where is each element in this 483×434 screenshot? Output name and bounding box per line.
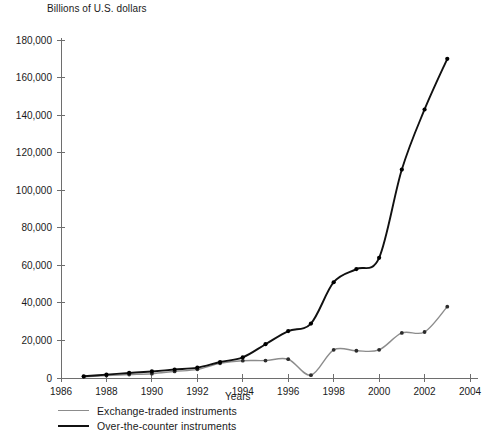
svg-text:2004: 2004	[459, 386, 482, 397]
svg-text:2000: 2000	[368, 386, 391, 397]
svg-text:60,000: 60,000	[21, 260, 52, 271]
data-point-over-the-counter	[400, 167, 404, 171]
chart-legend: Exchange-traded instruments Over-the-cou…	[58, 403, 358, 433]
legend-label-exchange-traded: Exchange-traded instruments	[97, 405, 237, 417]
legend-swatch-over-the-counter-icon	[58, 425, 89, 427]
x-axis-tick-labels: 1986198819901992199419961998200020022004	[50, 386, 482, 397]
data-point-over-the-counter	[445, 57, 449, 61]
data-point-exchange-traded	[423, 330, 427, 334]
data-point-over-the-counter	[104, 373, 108, 377]
svg-text:2002: 2002	[413, 386, 436, 397]
data-point-exchange-traded	[377, 348, 381, 352]
data-point-exchange-traded	[332, 348, 336, 352]
data-point-exchange-traded	[286, 357, 290, 361]
svg-text:20,000: 20,000	[21, 335, 52, 346]
y-axis-tick-labels: 020,00040,00060,00080,000100,000120,0001…	[16, 35, 53, 384]
data-point-over-the-counter	[332, 280, 336, 284]
chart-x-axis-title: Years	[225, 391, 251, 402]
svg-text:40,000: 40,000	[21, 297, 52, 308]
data-point-over-the-counter	[241, 355, 245, 359]
chart-axes	[61, 38, 478, 378]
series-over-the-counter	[82, 57, 450, 379]
legend-item-over-the-counter: Over-the-counter instruments	[58, 418, 358, 433]
series-exchange-traded	[82, 305, 449, 379]
data-point-over-the-counter	[377, 256, 381, 260]
svg-text:1998: 1998	[323, 386, 346, 397]
line-chart-plot: 020,00040,00060,00080,000100,000120,0001…	[0, 0, 483, 434]
svg-text:120,000: 120,000	[16, 147, 53, 158]
svg-text:1988: 1988	[95, 386, 118, 397]
series-line-exchange-traded	[84, 307, 448, 377]
data-point-exchange-traded	[264, 359, 268, 363]
svg-text:80,000: 80,000	[21, 222, 52, 233]
legend-label-over-the-counter: Over-the-counter instruments	[97, 420, 236, 432]
svg-text:100,000: 100,000	[16, 185, 53, 196]
series-line-over-the-counter	[84, 59, 448, 377]
data-point-exchange-traded	[400, 331, 404, 335]
svg-text:1996: 1996	[277, 386, 300, 397]
svg-text:1990: 1990	[141, 386, 164, 397]
chart-container: Billions of U.S. dollars 020,00040,00060…	[0, 0, 483, 434]
svg-text:140,000: 140,000	[16, 110, 53, 121]
legend-item-exchange-traded: Exchange-traded instruments	[58, 403, 358, 418]
data-point-over-the-counter	[422, 107, 426, 111]
data-point-over-the-counter	[195, 366, 199, 370]
data-point-exchange-traded	[354, 349, 358, 353]
chart-series-layer	[82, 57, 450, 379]
svg-text:0: 0	[46, 373, 52, 384]
svg-text:1992: 1992	[186, 386, 209, 397]
data-point-over-the-counter	[354, 267, 358, 271]
svg-text:180,000: 180,000	[16, 35, 53, 46]
data-point-over-the-counter	[309, 321, 313, 325]
data-point-over-the-counter	[127, 371, 131, 375]
data-point-exchange-traded	[309, 373, 313, 377]
data-point-exchange-traded	[445, 305, 449, 309]
data-point-over-the-counter	[286, 329, 290, 333]
data-point-over-the-counter	[82, 374, 86, 378]
data-point-over-the-counter	[173, 367, 177, 371]
data-point-over-the-counter	[263, 342, 267, 346]
svg-text:160,000: 160,000	[16, 72, 53, 83]
data-point-over-the-counter	[218, 360, 222, 364]
svg-text:1986: 1986	[50, 386, 73, 397]
legend-swatch-exchange-traded-icon	[58, 410, 89, 411]
axis-tick-marks	[57, 40, 470, 382]
data-point-over-the-counter	[150, 369, 154, 373]
